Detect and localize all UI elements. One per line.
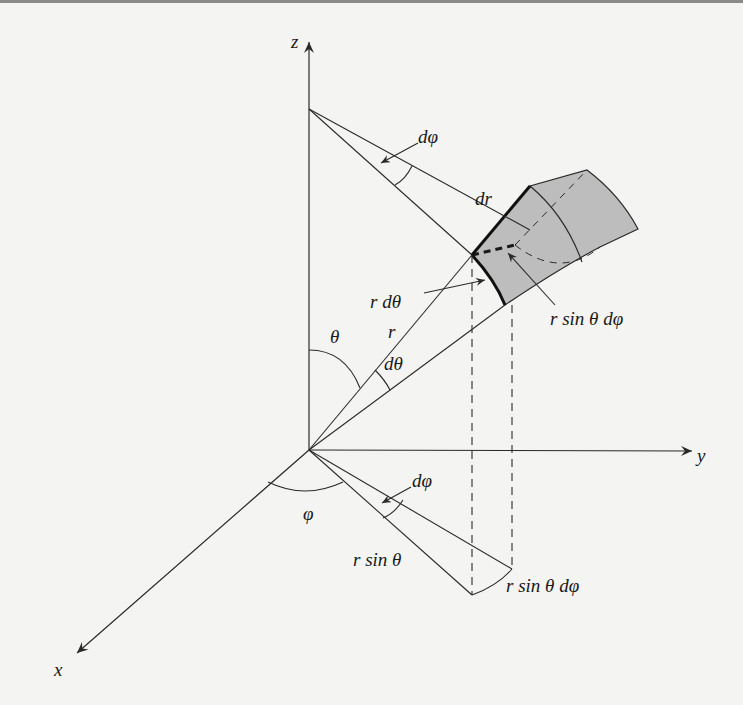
r-dtheta-label: r dθ [370,291,401,312]
r-sin-theta-dphi-upper-label: r sin θ dφ [550,308,623,329]
dphi-bottom-label: dφ [412,470,432,491]
r-label: r [388,321,396,342]
y-axis [309,450,692,451]
dtheta-label: dθ [384,353,403,374]
dphi-top-label: dφ [418,126,438,147]
theta-label: θ [330,326,339,347]
phi-label: φ [303,503,314,524]
z-axis-label: z [290,31,299,52]
spherical-volume-element-diagram: z y x dφ dr r dθ r θ dθ r sin θ dφ dφ φ … [0,0,743,705]
volume-element [472,170,638,305]
y-axis-label: y [695,445,706,466]
x-axis-label: x [53,659,63,680]
r-sin-theta-label: r sin θ [353,549,401,570]
x-axis [77,450,309,653]
dr-label: dr [475,188,493,209]
r-sin-theta-dphi-lower-label: r sin θ dφ [506,575,579,596]
